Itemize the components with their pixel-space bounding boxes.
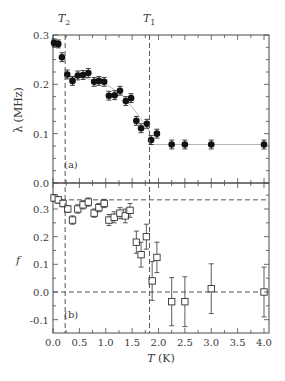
y-tick-label-b: -0.1 [30, 315, 49, 326]
data-point-lambda [168, 141, 175, 148]
t1-label: T1 [143, 12, 155, 27]
data-point-lambda [128, 95, 135, 102]
y-tick-label-a: 0.0 [33, 178, 49, 189]
data-point-f [69, 217, 75, 223]
data-point-lambda [101, 79, 108, 86]
guide-curve [66, 77, 264, 145]
y-tick-label-b: 0.1 [33, 259, 49, 270]
panel-a-frame [53, 35, 269, 183]
y-tick-label-b: 0.0 [33, 287, 49, 298]
y-tick-label-a: 0.3 [33, 30, 49, 41]
data-point-lambda [85, 70, 92, 77]
x-tick-label: 3.5 [230, 337, 246, 348]
data-point-f [208, 285, 214, 291]
x-axis-title: T (K) [147, 352, 175, 365]
data-point-f [101, 200, 107, 206]
x-tick-label: 2.0 [151, 337, 167, 348]
panel-b-plot [51, 195, 269, 327]
y-axis-title-a: λ (MHz) [12, 87, 25, 133]
panel-a-plot [51, 39, 268, 149]
data-point-f [154, 254, 160, 260]
y-tick-label-b: 0.3 [33, 204, 49, 215]
data-point-lambda [148, 137, 155, 144]
data-point-lambda [182, 141, 189, 148]
two-panel-chart: T2 T1 0.00.51.01.52.02.53.03.54.00.00.10… [0, 0, 285, 381]
data-point-lambda [59, 54, 66, 61]
x-tick-label: 2.5 [177, 337, 193, 348]
x-tick-label: 0.5 [71, 337, 87, 348]
data-point-lambda [261, 141, 268, 148]
data-point-lambda [117, 87, 124, 94]
x-tick-label: 4.0 [256, 337, 272, 348]
x-tick-label: 1.0 [98, 337, 114, 348]
data-point-f [138, 251, 144, 257]
x-tick-label: 3.0 [203, 337, 219, 348]
panel-b-label: (b) [64, 309, 78, 320]
t2-label: T2 [58, 12, 70, 27]
x-tick-label: 1.5 [124, 337, 140, 348]
data-point-f [85, 199, 91, 205]
data-point-lambda [208, 141, 215, 148]
data-point-lambda [138, 125, 145, 132]
data-point-f [168, 298, 174, 304]
data-point-lambda [154, 130, 161, 137]
data-point-f [182, 298, 188, 304]
figure: T2 T1 0.00.51.01.52.02.53.03.54.00.00.10… [0, 0, 285, 381]
y-axis-title-b: f [15, 254, 22, 267]
data-point-lambda [133, 118, 140, 125]
data-point-lambda [111, 92, 118, 99]
y-tick-label-b: 0.2 [33, 232, 49, 243]
x-tick-label: 0.0 [45, 337, 61, 348]
data-point-f [143, 233, 149, 239]
data-point-f [127, 207, 133, 213]
panel-a-label: (a) [64, 159, 78, 170]
y-tick-label-a: 0.1 [33, 129, 49, 140]
data-point-f [133, 239, 139, 245]
data-point-lambda [106, 92, 113, 99]
y-tick-label-a: 0.2 [33, 79, 49, 90]
data-point-lambda [69, 78, 76, 85]
data-point-lambda [55, 41, 62, 48]
